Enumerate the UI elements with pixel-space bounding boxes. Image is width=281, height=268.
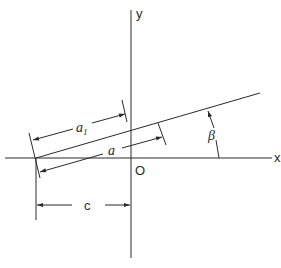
x-axis-label: x — [274, 150, 281, 165]
extension-line-a-right — [158, 123, 166, 145]
a1-label: a1 — [76, 120, 88, 137]
a1-dim-right — [92, 114, 125, 123]
extension-line-a1-right — [122, 100, 127, 122]
beta-label: β — [207, 128, 215, 143]
a-label: a — [108, 143, 115, 158]
beta-arc-upper — [208, 111, 214, 128]
y-axis-label: y — [136, 6, 143, 21]
origin-label: O — [135, 163, 145, 178]
diagram-canvas: x y O a1 a β c — [0, 0, 281, 268]
a-dim-left — [40, 154, 103, 172]
a-dim-right — [122, 137, 162, 148]
beta-arc-lower — [216, 140, 219, 158]
c-label: c — [84, 198, 91, 213]
inclined-line — [36, 93, 260, 158]
a1-dim-left — [33, 129, 73, 140]
